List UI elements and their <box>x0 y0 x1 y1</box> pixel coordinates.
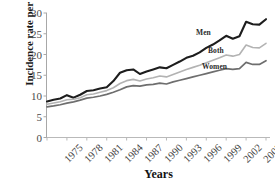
x-tick-label: 1987 <box>142 142 165 165</box>
series-label-both: Both <box>208 46 224 55</box>
x-tick-label: 1990 <box>162 142 185 165</box>
x-tick-label: 1981 <box>102 142 125 165</box>
x-tick-label: 2005 <box>261 142 275 165</box>
x-axis-title: Years <box>46 167 271 182</box>
series-label-men: Men <box>196 28 211 37</box>
chart-figure: Incidence rate per 100,000 051015202530 … <box>0 0 275 185</box>
x-axis-tick-labels: 1975197819811984198719901993199619992002… <box>0 0 275 185</box>
x-tick-label: 1996 <box>202 142 225 165</box>
x-tick-label: 2002 <box>241 142 264 165</box>
x-tick-label: 1978 <box>82 142 105 165</box>
x-tick-label: 1975 <box>62 142 85 165</box>
x-tick-label: 1999 <box>221 142 244 165</box>
series-label-women: Women <box>202 62 227 71</box>
x-tick-label: 1984 <box>122 142 145 165</box>
x-tick-label: 1993 <box>182 142 205 165</box>
